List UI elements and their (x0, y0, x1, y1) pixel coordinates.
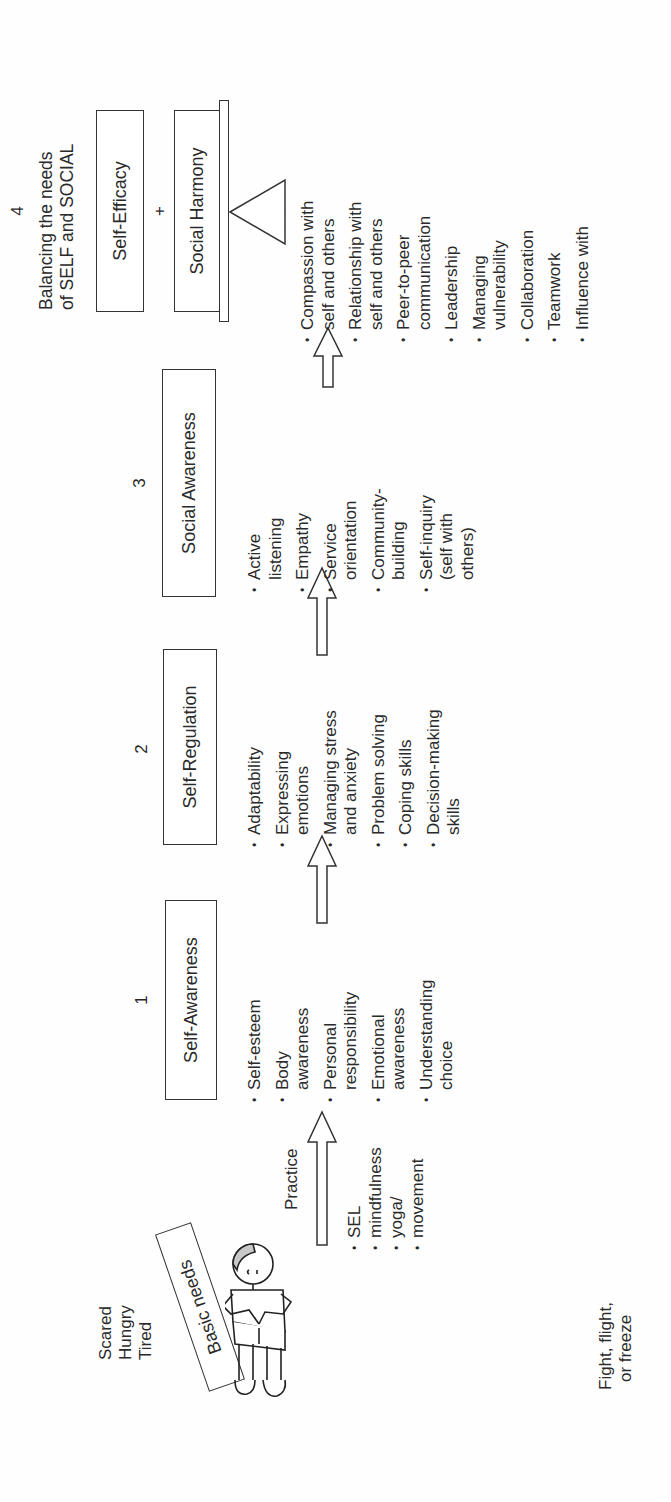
self-efficacy-box: Self-Efficacy (96, 110, 144, 312)
feeling-hungry: Hungry (116, 1305, 136, 1360)
list-item: Collaboration (518, 201, 539, 342)
stage-3-title: Social Awareness (179, 412, 200, 554)
stage-1-number: 1 (132, 985, 152, 1015)
list-item: Leadership (442, 201, 463, 342)
stage-1-box: Self-Awareness (165, 900, 217, 1100)
list-item: Self-inquiry (self with others) (417, 488, 479, 592)
list-item: Active listening (245, 488, 286, 592)
practice-arrow-icon (306, 1110, 338, 1246)
stage-2-list: Adaptability Expressing emotions Managin… (245, 709, 472, 847)
list-item: Problem solving (369, 709, 390, 847)
list-item: Managing stress and anxiety (321, 709, 362, 847)
list-item: Adaptability (245, 709, 266, 847)
practice-item: yoga/ (387, 1147, 407, 1250)
stage-1-list: Self-esteem Body awareness Personal resp… (245, 979, 465, 1102)
practice-label: Practice (282, 1149, 302, 1210)
sel-progression-diagram: Scared Hungry Tired Basic needs (0, 0, 671, 1502)
list-item: Service orientation (321, 488, 362, 592)
feeling-scared: Scared (96, 1305, 116, 1360)
practice-item: SEL (345, 1147, 365, 1250)
practice-item: mindfulness (366, 1147, 386, 1250)
practice-list: SEL mindfulness yoga/ movement (345, 1147, 429, 1250)
list-item: Body awareness (273, 979, 314, 1102)
list-item: Self-esteem (245, 979, 266, 1102)
list-item: Understanding choice (417, 979, 458, 1102)
stage-4-heading: Balancing the needs of SELF and SOCIAL (36, 144, 78, 310)
stage-3-box: Social Awareness (162, 369, 216, 597)
list-item: Influence with (573, 201, 594, 342)
stage-4-number: 4 (8, 196, 28, 226)
list-item: Teamwork (545, 201, 566, 342)
list-item: Emotional awareness (369, 979, 410, 1102)
stage-2-box: Self-Regulation (163, 649, 217, 845)
reaction-label: Fight, flight, or freeze (596, 1302, 636, 1390)
list-item: Decision-making skills (424, 709, 465, 847)
list-item: Community- building (369, 488, 410, 592)
practice-item: movement (408, 1147, 428, 1250)
stage-3-number: 3 (130, 468, 150, 498)
stage-2-number: 2 (132, 734, 152, 764)
list-item: Empathy (293, 488, 314, 592)
child-figure-icon (225, 1242, 325, 1402)
feeling-tired: Tired (136, 1305, 156, 1360)
list-item: Relationship with self and others (346, 201, 387, 342)
list-item: Managing vulnerability (470, 201, 511, 342)
stage-2-title: Self-Regulation (180, 685, 201, 808)
list-item: Personal responsibility (321, 979, 362, 1102)
list-item: Peer-to-peer communication (394, 201, 435, 342)
list-item: Expressing emotions (273, 709, 314, 847)
stage-4-list: Compassion with self and others Relation… (298, 201, 600, 342)
list-item: Compassion with self and others (298, 201, 339, 342)
social-harmony-box: Social Harmony (174, 110, 220, 312)
feelings-list: Scared Hungry Tired (96, 1305, 156, 1360)
stage-1-title: Self-Awareness (181, 937, 202, 1063)
plus-sign: + (150, 196, 170, 226)
stage-3-list: Active listening Empathy Service orienta… (245, 488, 485, 592)
arrow-1-to-2-icon (306, 834, 338, 924)
fulcrum-triangle-icon (228, 177, 288, 247)
basic-needs-label: Basic needs (174, 1257, 226, 1357)
list-item: Coping skills (396, 709, 417, 847)
